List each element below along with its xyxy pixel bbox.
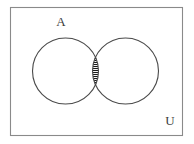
venn-diagram-svg: A U [0, 0, 194, 144]
set-a-label: A [56, 14, 66, 29]
venn-diagram-container: A U [0, 0, 194, 144]
universal-set-label: U [165, 113, 175, 128]
